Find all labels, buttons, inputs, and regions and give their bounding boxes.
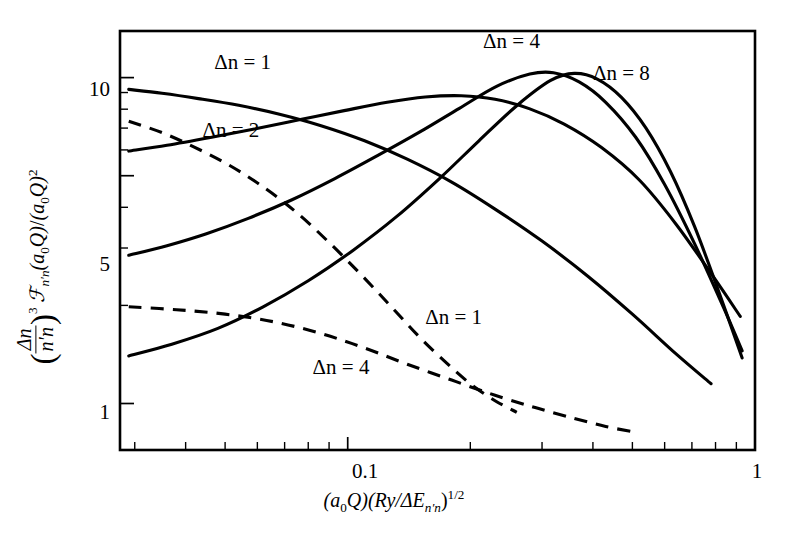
y-label-a-subscript: 0 <box>37 247 52 254</box>
curve-annotation-3: Δn = 8 <box>593 61 650 85</box>
y-label-exponent: 3 <box>25 308 40 315</box>
y-tick-label-5: 5 <box>100 252 111 276</box>
y-label-script-f: ℱ <box>26 287 48 303</box>
curve-annotation-2: Δn = 4 <box>483 29 540 53</box>
y-label-f-subscript: n′n <box>37 270 52 286</box>
y-label-f-arg-open: (a <box>26 254 48 271</box>
y-label-denominator-close: Q) <box>26 176 48 197</box>
curve-annotations: Δn = 1Δn = 2Δn = 4Δn = 8Δn = 1Δn = 4 <box>202 29 649 379</box>
y-label-open-paren: ( <box>25 353 61 364</box>
x-label-first-subscript: 0 <box>340 500 347 515</box>
y-label-denominator-exponent: 2 <box>25 170 40 177</box>
chart-svg: 10 5 1 0.1 1 Δn = 1Δn = 2Δn = 4Δn = 8Δn … <box>0 0 788 534</box>
plot-frame <box>120 31 755 450</box>
figure-panel: 10 5 1 0.1 1 Δn = 1Δn = 2Δn = 4Δn = 8Δn … <box>0 0 788 534</box>
x-axis-label: (a0Q)(Ry/ΔEn′n)1/2 <box>0 487 788 516</box>
curve-annotation-5: Δn = 4 <box>313 355 370 379</box>
x-label-e-subscript: n′n <box>425 500 441 515</box>
curve-annotation-1: Δn = 2 <box>202 118 259 142</box>
y-label-slash: / <box>26 220 48 226</box>
y-label-denominator-open: (a <box>26 204 48 221</box>
curve-annotation-4: Δn = 1 <box>425 305 482 329</box>
series-curve-5 <box>129 307 633 432</box>
y-label-q-close: Q) <box>26 226 48 247</box>
y-label-frac-denominator: n′n <box>36 325 57 353</box>
y-label-close-paren: ) <box>25 314 61 325</box>
x-tick-label-0.1: 0.1 <box>352 459 378 483</box>
x-label-first-close: Q)(Ry/ΔE <box>347 489 425 511</box>
y-tick-label-1: 1 <box>100 400 111 424</box>
y-label-fraction: Δnn′n <box>14 325 57 353</box>
y-tick-label-10: 10 <box>89 77 110 101</box>
y-label-denominator-subscript: 0 <box>37 197 52 204</box>
curve-annotation-0: Δn = 1 <box>214 50 271 74</box>
x-label-exponent: 1/2 <box>448 487 465 502</box>
x-label-close-paren: ) <box>441 489 448 511</box>
y-axis-label: (Δnn′n)3 ℱn′n(a0Q)/(a0Q)2 <box>6 0 70 534</box>
x-label-first: (a <box>324 489 341 511</box>
x-tick-label-1: 1 <box>752 459 763 483</box>
y-label-frac-numerator: Δn <box>14 325 36 353</box>
